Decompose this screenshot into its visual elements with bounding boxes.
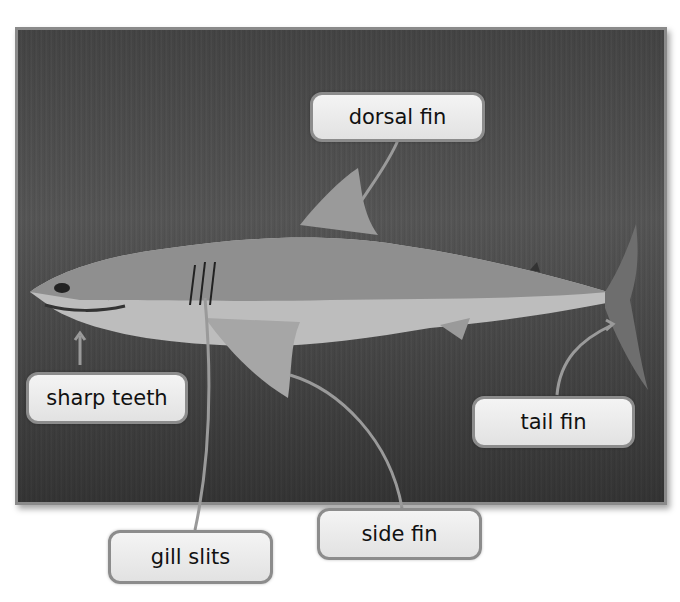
label-gill-slits-text: gill slits [151, 545, 230, 569]
label-gill-slits: gill slits [108, 530, 273, 584]
label-sharp-teeth-text: sharp teeth [46, 386, 167, 410]
label-tail-fin: tail fin [472, 396, 635, 448]
leader-tail-fin [557, 325, 612, 395]
label-tail-fin-text: tail fin [521, 410, 587, 434]
leader-side-fin [290, 375, 402, 508]
label-dorsal-fin-text: dorsal fin [349, 105, 447, 129]
label-sharp-teeth: sharp teeth [26, 372, 188, 424]
label-dorsal-fin: dorsal fin [310, 92, 485, 142]
label-side-fin: side fin [317, 508, 482, 560]
leader-dorsal-fin [362, 140, 398, 200]
shark-body [30, 168, 648, 398]
label-side-fin-text: side fin [361, 522, 437, 546]
